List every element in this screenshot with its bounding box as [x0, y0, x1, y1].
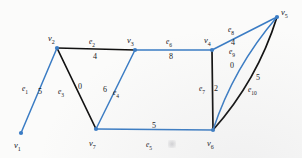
- edge-label-subscript: 9: [232, 52, 235, 58]
- node-label-v7: v7: [89, 139, 96, 150]
- node-label-subscript: 1: [18, 146, 21, 152]
- graph-node-v6: [211, 128, 215, 132]
- node-label-v2: v2: [48, 34, 55, 45]
- node-layer: [19, 15, 279, 135]
- graph-edge-e7: [212, 50, 213, 130]
- edge-label-e2: e2: [89, 38, 95, 48]
- edge-label-subscript: 7: [202, 89, 205, 95]
- edge-weight-e4: 6: [103, 86, 107, 94]
- edge-weight-e6: 8: [169, 53, 173, 61]
- edge-weight-e10: 5: [256, 74, 260, 82]
- edge-label-subscript: 5: [149, 145, 152, 151]
- graph-node-v4: [210, 48, 214, 52]
- edge-weight-e3: 0: [78, 83, 82, 91]
- graph-node-v7: [94, 127, 98, 131]
- edge-weight-e1: 5: [38, 88, 42, 96]
- edge-label-e4: e4: [113, 89, 119, 99]
- node-label-subscript: 4: [208, 41, 211, 47]
- edge-label-e10: e10: [248, 86, 257, 96]
- edge-label-subscript: 4: [116, 93, 119, 99]
- edge-label-e7: e7: [199, 85, 205, 95]
- graph-figure: v1v2v3v4v5v6v7e15e24e30e46e55e68e72e84e9…: [0, 0, 302, 158]
- edge-label-e1: e1: [22, 85, 28, 95]
- node-label-subscript: 3: [131, 41, 134, 47]
- node-label-v1: v1: [14, 141, 21, 152]
- edge-label-subscript: 6: [169, 42, 172, 48]
- edge-label-subscript: 10: [251, 90, 257, 96]
- node-label-subscript: 5: [285, 13, 288, 19]
- edge-label-e8: e8: [228, 26, 234, 36]
- graph-node-v3: [133, 48, 137, 52]
- graph-node-v1: [19, 131, 23, 135]
- edge-label-subscript: 3: [61, 92, 64, 98]
- edge-label-subscript: 2: [92, 42, 95, 48]
- node-label-v5: v5: [281, 8, 288, 19]
- edge-weight-e5: 5: [152, 122, 156, 130]
- edge-label-e9: e9: [229, 48, 235, 58]
- edge-weight-e8: 4: [231, 39, 235, 47]
- edge-weight-e2: 4: [93, 53, 97, 61]
- edge-label-e3: e3: [58, 88, 64, 98]
- edge-label-e5: e5: [146, 141, 152, 151]
- edge-label-subscript: 8: [231, 30, 234, 36]
- graph-edge-e2: [57, 48, 135, 50]
- node-label-v3: v3: [127, 36, 134, 47]
- edge-layer: [21, 17, 277, 133]
- edge-label-subscript: 1: [25, 89, 28, 95]
- node-label-subscript: 6: [211, 144, 214, 150]
- node-label-subscript: 7: [93, 144, 96, 150]
- node-label-subscript: 2: [52, 39, 55, 45]
- edge-weight-e9: 0: [230, 62, 234, 70]
- graph-node-v2: [55, 46, 59, 50]
- edge-weight-e7: 2: [214, 85, 218, 93]
- node-label-v6: v6: [207, 139, 214, 150]
- graph-node-v5: [275, 15, 279, 19]
- edge-label-e6: e6: [166, 38, 172, 48]
- node-label-v4: v4: [204, 36, 211, 47]
